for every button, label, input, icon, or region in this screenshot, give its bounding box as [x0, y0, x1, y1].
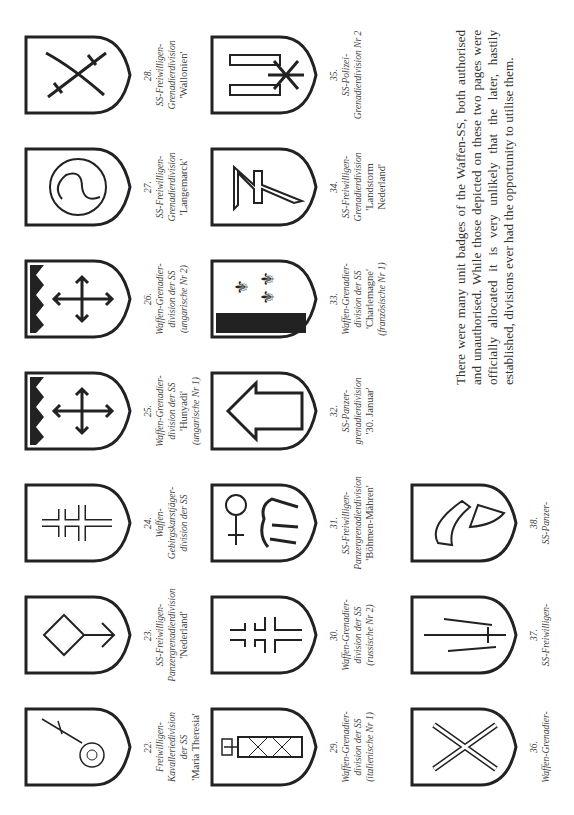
crossed-grenades-icon: [408, 705, 520, 789]
badge-25: 25.Waffen-Grenadier-division der SS'Huny…: [22, 361, 202, 461]
fasces-icon: [208, 705, 320, 789]
fleur-de-lis-icon: ⚜⚜⚜: [208, 257, 320, 341]
caption-line: Grenadierdivision Nr 2: [352, 25, 364, 125]
wolfsangel-zigzag-icon: [208, 145, 320, 229]
caption-line: Waffen-: [154, 473, 166, 573]
caption-line: SS-Freiwilligen-: [340, 473, 352, 573]
caption-line: SS-Freiwilligen-: [154, 137, 166, 237]
badge-number: 34.: [328, 137, 340, 237]
svg-text:⚜: ⚜: [258, 289, 278, 305]
caption-line: SS-Polizei-: [340, 25, 352, 125]
caption-line: Grenadierdivision: [166, 25, 178, 125]
caption-line: Waffen-Grenadier-: [154, 361, 166, 461]
caption-line: SS-Freiwilligen-: [540, 585, 552, 685]
caption-line: SS-Freiwilligen-: [154, 25, 166, 125]
caption-line: Gebirgskarstjäger-: [166, 473, 178, 573]
division-name: 'Hunyadi': [178, 361, 190, 461]
badge-number: 29.: [328, 697, 340, 797]
caption-line: Freiwilligen-: [154, 697, 166, 797]
division-name: '30. Januar': [364, 361, 376, 461]
caption-line: division der SS: [352, 249, 364, 349]
badge-number: 37.: [528, 585, 540, 685]
badge-number: 30.: [328, 585, 340, 685]
badge-number: 38.: [528, 473, 540, 573]
badge-number: 22.: [142, 697, 154, 797]
badge-number: 27.: [142, 137, 154, 237]
caption-line: Grenadierdivision: [352, 137, 364, 237]
division-name: 'Wallonien': [178, 25, 190, 125]
badge-number: 35.: [328, 25, 340, 125]
caption-line: division der SS: [352, 697, 364, 797]
caption-sub: (italienische Nr 1): [364, 697, 376, 797]
badge-37: 37.SS-Freiwilligen-: [408, 585, 552, 685]
arrow-rune-icon: [208, 369, 320, 453]
caption-line: division der SS: [178, 473, 190, 573]
caption-line: Grenadierdivision: [166, 137, 178, 237]
cornflower-icon: [22, 705, 134, 789]
division-name: Nederland': [376, 137, 388, 237]
badge-34: 34.SS-Freiwilligen-Grenadierdivision'Lan…: [208, 137, 388, 237]
caption-line: grenadierdivision: [352, 361, 364, 461]
badge-number: 24.: [142, 473, 154, 573]
caption-line: Waffen-Grenadier-: [540, 697, 552, 797]
svg-text:⚜: ⚜: [258, 271, 278, 287]
division-name: 'Nederland': [178, 585, 190, 685]
badge-number: 28.: [142, 25, 154, 125]
badge-number: 32.: [328, 361, 340, 461]
caption-line: division der SS: [166, 361, 178, 461]
double-cross-icon: [208, 593, 320, 677]
triskelion-icon: [22, 145, 134, 229]
caption-line: SS-Freiwilligen-: [154, 585, 166, 685]
badge-27: 27.SS-Freiwilligen-Grenadierdivision'Lan…: [22, 137, 190, 237]
badge-35: 35.SS-Polizei-Grenadierdivision Nr 2: [208, 25, 364, 125]
caption-sub: (französische Nr 1): [376, 249, 388, 349]
badge-36: 36.Waffen-Grenadier-: [408, 697, 552, 797]
badge-number: 33.: [328, 249, 340, 349]
badge-31: 31.SS-Freiwilligen-Panzergrenadierdivisi…: [208, 473, 376, 573]
caption-line: division der SS: [352, 585, 364, 685]
edelweiss-cross-icon: [22, 481, 134, 565]
arrow-cross-crown-icon: [22, 369, 134, 453]
badge-29: 29.Waffen-Grenadier-division der SS(ital…: [208, 697, 376, 797]
caption-line: SS-Freiwilligen-: [340, 137, 352, 237]
caption-line: SS-Panzer-: [340, 361, 352, 461]
badge-33: ⚜⚜⚜ 33.Waffen-Grenadier-division der SS'…: [208, 249, 388, 349]
caption-sub: (russische Nr 2): [364, 585, 376, 685]
caption-line: Kavalleriedivision: [166, 697, 178, 797]
arrow-cross-crown-icon: [22, 257, 134, 341]
caption-line: Waffen-Grenadier-: [340, 249, 352, 349]
badge-number: 31.: [328, 473, 340, 573]
caption-line: Panzergrenadierdivision: [166, 585, 178, 685]
caption-sub: (ungarische Nr 2): [178, 249, 190, 349]
badge-24: 24.Waffen-Gebirgskarstjäger-division der…: [22, 473, 190, 573]
badge-number: 25.: [142, 361, 154, 461]
badge-30: 30.Waffen-Grenadier-division der SS(russ…: [208, 585, 376, 685]
sword-ship-icon: [408, 593, 520, 677]
lion-cross-icon: [208, 481, 320, 565]
caption-line: Waffen-Grenadier-: [154, 249, 166, 349]
badge-number: 23.: [142, 585, 154, 685]
body-paragraph: There were many unit badges of the Waffe…: [453, 30, 517, 385]
caption-sub: (ungarische Nr 1): [190, 361, 202, 461]
division-name: 'Böhmen-Mähren': [364, 473, 376, 573]
caption-line: Panzergrenadierdivision: [352, 473, 364, 573]
division-name: 'Landstorm: [364, 137, 376, 237]
badge-32: 32.SS-Panzer-grenadierdivision'30. Janua…: [208, 361, 376, 461]
division-name: 'Charlemagne': [364, 249, 376, 349]
caption-line: der SS: [178, 697, 190, 797]
caption-line: SS-Panzer-: [540, 473, 552, 573]
wolfsangel-rune-icon: [22, 593, 134, 677]
caption-line: Waffen-Grenadier-: [340, 585, 352, 685]
caption-line: Waffen-Grenadier-: [340, 697, 352, 797]
badge-26: 26.Waffen-Grenadier-division der SS(unga…: [22, 249, 190, 349]
badge-number: 26.: [142, 249, 154, 349]
division-name: 'Maria Theresia': [190, 697, 202, 797]
badge-22: 22.Freiwilligen-Kavalleriedivisionder SS…: [22, 697, 202, 797]
badge-28: 28.SS-Freiwilligen-Grenadierdivision'Wal…: [22, 25, 190, 125]
book-page: 22.Freiwilligen-Kavalleriedivisionder SS…: [0, 0, 574, 815]
division-name: 'Langemarck': [178, 137, 190, 237]
caption-line: division der SS: [166, 249, 178, 349]
badge-23: 23.SS-Freiwilligen-Panzergrenadierdivisi…: [22, 585, 190, 685]
badge-38: 38.SS-Panzer-: [408, 473, 552, 573]
winged-helmet-icon: [408, 481, 520, 565]
